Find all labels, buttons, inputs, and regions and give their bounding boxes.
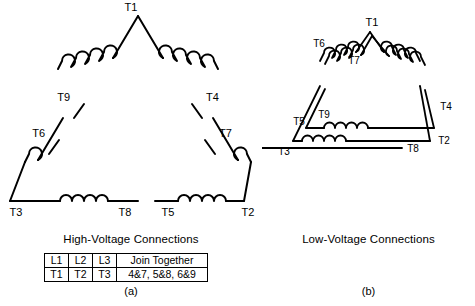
tap-lead-t9: [74, 104, 84, 118]
bottom-right-coil: [178, 195, 226, 201]
inner-bottom-coil: [324, 123, 368, 129]
label-t9: T9: [318, 109, 330, 120]
cell-l1: T1: [45, 268, 69, 282]
label-t5: T5: [162, 206, 175, 218]
left-lower-coil-start: [25, 148, 42, 163]
label-t6: T6: [313, 38, 325, 49]
high-voltage-diagram-panel: T1 T9 T4 T6 T7 T3 T8 T5 T2 High-Voltage …: [0, 0, 262, 306]
header-l1: L1: [45, 254, 69, 268]
tap-lead-t6: [49, 140, 59, 154]
label-t8: T8: [119, 206, 132, 218]
label-t4: T4: [206, 91, 219, 103]
label-t3: T3: [10, 206, 23, 218]
header-l3: L3: [93, 254, 117, 268]
panel-b-subcaption: (b): [262, 285, 475, 297]
label-t3: T3: [278, 146, 290, 157]
right-upper-coil: [159, 46, 218, 69]
tap-lead-t4: [192, 104, 202, 118]
panel-a-subcaption: (a): [0, 285, 262, 297]
cell-l3: T3: [93, 268, 117, 282]
left-leg-lower-wire: [10, 162, 25, 201]
label-t4: T4: [440, 101, 452, 112]
label-t1: T1: [125, 1, 138, 13]
outer-right-lower-wire: [420, 86, 430, 141]
low-voltage-caption: Low-Voltage Connections: [262, 233, 475, 245]
label-t7: T7: [348, 55, 360, 66]
label-t2: T2: [438, 135, 450, 146]
left-upper-coil: [58, 46, 117, 69]
label-t7: T7: [219, 127, 232, 139]
low-voltage-delta-schematic: T1 T6 T7 T9 T4 T2 T3 T5 T8: [262, 0, 475, 232]
high-voltage-delta-schematic: T1 T9 T4 T6 T7 T3 T8 T5 T2: [0, 0, 262, 232]
label-t9: T9: [57, 91, 70, 103]
table-row: T1 T2 T3 4&7, 5&8, 6&9: [45, 268, 208, 282]
label-t8: T8: [407, 143, 419, 154]
right-leg-lower-wire: [244, 162, 251, 201]
cell-l2: T2: [69, 268, 93, 282]
outer-left-lower-wire: [293, 86, 320, 141]
header-l2: L2: [69, 254, 93, 268]
label-t1: T1: [366, 16, 379, 28]
cell-join: 4&7, 5&8, 6&9: [117, 268, 208, 282]
motor-winding-connection-figure: T1 T9 T4 T6 T7 T3 T8 T5 T2 High-Voltage …: [0, 0, 475, 306]
tap-lead-t7: [205, 140, 215, 154]
label-t2: T2: [242, 206, 255, 218]
right-lower-coil-start: [234, 148, 251, 163]
label-t6: T6: [32, 127, 45, 139]
outer-bottom-coil: [302, 136, 346, 142]
table-header-row: L1 L2 L3 Join Together: [45, 254, 208, 268]
header-join: Join Together: [117, 254, 208, 268]
label-t5: T5: [293, 116, 305, 127]
high-voltage-caption: High-Voltage Connections: [0, 233, 262, 245]
low-voltage-diagram-panel: T1 T6 T7 T9 T4 T2 T3 T5 T8 Low-Voltage C…: [262, 0, 475, 306]
bottom-left-coil: [60, 195, 108, 201]
high-voltage-connection-table: L1 L2 L3 Join Together T1 T2 T3 4&7, 5&8…: [44, 253, 208, 282]
